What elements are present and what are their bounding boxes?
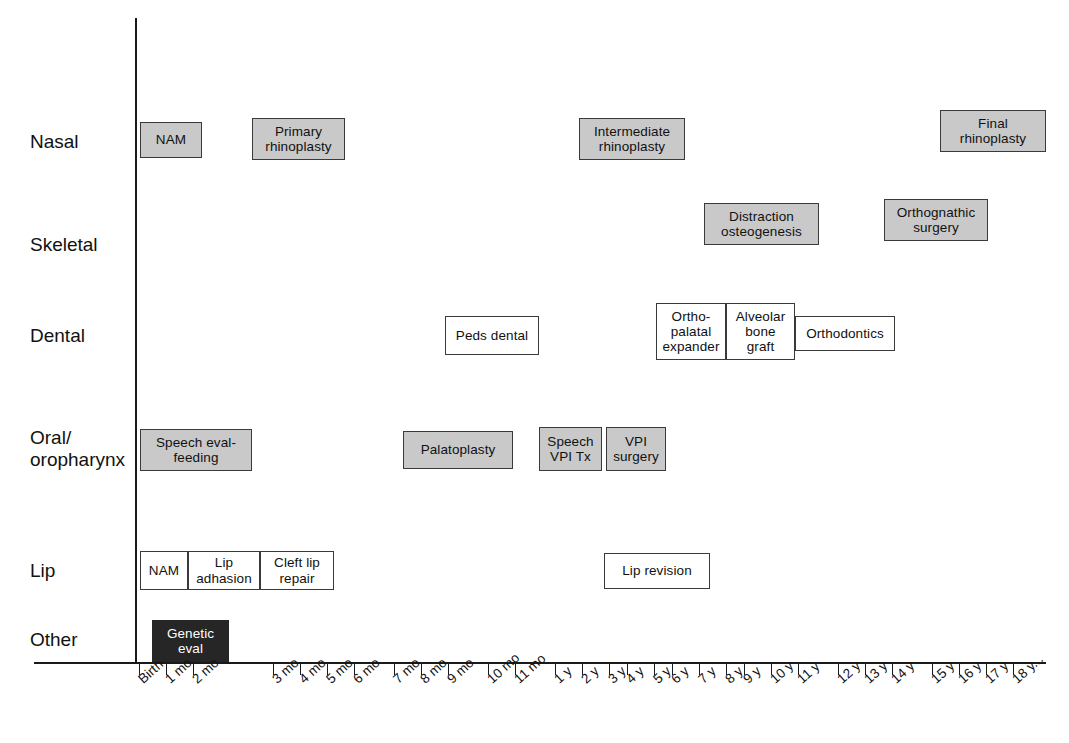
timeline-box-primary-rhinoplasty: Primary rhinoplasty — [252, 118, 345, 160]
x-tick-label: 3 mo — [270, 656, 301, 686]
timeline-box-orthodontics: Orthodontics — [795, 316, 895, 351]
timeline-box-peds-dental: Peds dental — [445, 316, 539, 355]
timeline-box-speech-vpi-tx: Speech VPI Tx — [539, 427, 602, 471]
timeline-box-distraction-osteogenesis: Distraction osteogenesis — [704, 203, 819, 245]
y-axis-line — [135, 18, 137, 664]
timeline-box-intermediate-rhinoplasty: Intermediate rhinoplasty — [579, 118, 685, 160]
x-tick-label: 9 mo — [445, 656, 476, 686]
row-label-oral-oropharynx: Oral/ oropharynx — [30, 427, 125, 471]
timeline-box-palatoplasty: Palatoplasty — [403, 431, 513, 469]
timeline-box-nam: NAM — [140, 122, 202, 158]
timeline-box-nam: NAM — [140, 551, 188, 590]
row-label-other: Other — [30, 629, 78, 651]
row-label-nasal: Nasal — [30, 131, 79, 153]
timeline-box-vpi-surgery: VPI surgery — [606, 427, 666, 471]
x-tick-label: 4 mo — [297, 656, 328, 686]
x-tick-label: 18 y... — [1010, 652, 1046, 686]
x-tick-label: 7 mo — [391, 656, 422, 686]
x-tick-label: 8 mo — [418, 656, 449, 686]
timeline-box-speech-eval-feeding: Speech eval- feeding — [140, 429, 252, 471]
row-label-lip: Lip — [30, 560, 55, 582]
timeline-box-cleft-lip-repair: Cleft lip repair — [260, 551, 334, 590]
x-tick-label: 6 mo — [351, 656, 382, 686]
timeline-box-alveolar-bone-graft: Alveolar bone graft — [726, 303, 795, 360]
timeline-box-genetic-eval: Genetic eval — [152, 620, 229, 662]
row-label-dental: Dental — [30, 325, 85, 347]
x-tick-label: 5 mo — [324, 656, 355, 686]
timeline-box-final-rhinoplasty: Final rhinoplasty — [940, 110, 1046, 152]
timeline-box-lip-revision: Lip revision — [604, 553, 710, 589]
timeline-box-orthognathic-surgery: Orthognathic surgery — [884, 199, 988, 241]
timeline-chart: NasalSkeletalDentalOral/ oropharynxLipOt… — [0, 0, 1069, 743]
row-label-skeletal: Skeletal — [30, 234, 98, 256]
timeline-box-lip-adhasion: Lip adhasion — [188, 551, 260, 590]
timeline-box-ortho-palatal-expander: Ortho- palatal expander — [656, 303, 726, 360]
